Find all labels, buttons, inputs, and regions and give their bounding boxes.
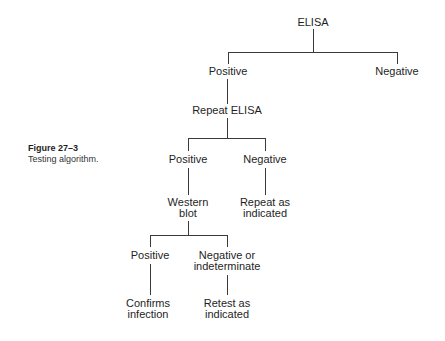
connector [227, 235, 228, 247]
connector [227, 275, 228, 295]
figure-description: Testing algorithm. [28, 154, 99, 165]
connector [227, 79, 228, 104]
node-repeat-as-indicated: Repeat as indicated [240, 197, 290, 219]
node-repeat-elisa: Repeat ELISA [192, 105, 262, 116]
connector [397, 52, 398, 64]
connector [188, 168, 189, 195]
connector [228, 52, 229, 64]
node-positive-1: Positive [209, 66, 248, 77]
node-negative-2: Negative [243, 154, 286, 165]
connector [313, 29, 314, 52]
node-negative-1: Negative [375, 66, 418, 77]
connector [188, 138, 266, 139]
connector [150, 235, 228, 236]
node-positive-2: Positive [169, 154, 208, 165]
figure-caption: Figure 27–3 Testing algorithm. [28, 143, 99, 165]
connector [265, 168, 266, 195]
connector [188, 138, 189, 151]
connector [150, 235, 151, 247]
connector [265, 138, 266, 151]
node-elisa: ELISA [297, 17, 328, 28]
node-confirms-infection: Confirms infection [126, 298, 170, 320]
node-western-blot: Western blot [168, 197, 209, 219]
connector [188, 221, 189, 235]
connector [150, 264, 151, 295]
node-positive-3: Positive [131, 250, 170, 261]
figure-number: Figure 27–3 [28, 143, 99, 154]
node-retest-as-indicated: Retest as indicated [204, 298, 250, 320]
node-negative-or-indeterminate: Negative or indeterminate [194, 250, 261, 272]
connector [227, 118, 228, 138]
connector [228, 52, 398, 53]
